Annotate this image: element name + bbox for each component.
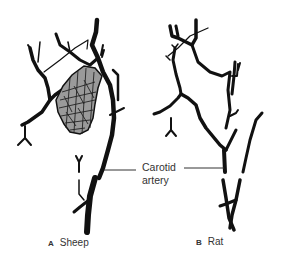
panel-a-caption: ASheep	[48, 237, 89, 248]
callout-line1: Carotid	[142, 161, 176, 174]
panel-a-name: Sheep	[60, 237, 89, 248]
panel-b-name: Rat	[208, 236, 224, 247]
carotid-artery-label: Carotid artery	[142, 161, 176, 187]
rat-vessels	[154, 20, 262, 230]
panel-b-letter: B	[196, 238, 202, 247]
panel-b-caption: BRat	[196, 236, 223, 247]
callout-line2: artery	[142, 174, 176, 187]
panel-a-letter: A	[48, 239, 54, 248]
vascular-diagram	[0, 0, 285, 258]
rete-mirabile	[56, 66, 102, 134]
